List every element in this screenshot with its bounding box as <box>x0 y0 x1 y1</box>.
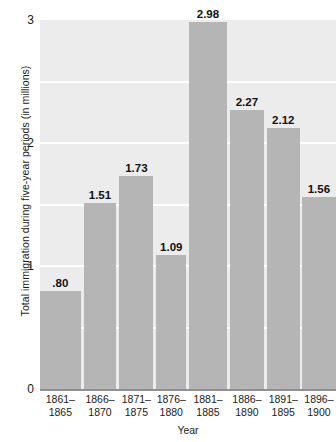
x-axis-tick-labels: 1861–18651866–18701871–18751876–18801881… <box>40 393 336 423</box>
bar[interactable] <box>84 203 117 389</box>
bar[interactable] <box>156 255 186 389</box>
bar-slot: 2.27 <box>230 20 264 389</box>
bar[interactable] <box>119 176 153 389</box>
bar-slot: 2.98 <box>189 20 227 389</box>
x-axis-title: Year <box>40 424 336 436</box>
bar-slot: 2.12 <box>267 20 300 389</box>
bar-value-label: 1.73 <box>119 162 153 174</box>
bar-value-label: 2.27 <box>230 96 264 108</box>
bar-value-label: 1.56 <box>302 183 336 195</box>
bar-series: .801.511.731.092.982.272.121.56 <box>40 20 336 389</box>
bar-slot: 1.09 <box>156 20 186 389</box>
x-tick-label-line: 1896– <box>296 393 336 406</box>
bar-slot: 1.73 <box>119 20 153 389</box>
bar-value-label: 1.51 <box>84 189 117 201</box>
bar[interactable] <box>189 22 227 389</box>
bar-slot: .80 <box>40 20 81 389</box>
x-tick-label-line: 1900 <box>296 406 336 419</box>
bar-slot: 1.56 <box>302 20 336 389</box>
bar-slot: 1.51 <box>84 20 117 389</box>
bar[interactable] <box>267 128 300 389</box>
y-tick-label: 1 <box>27 260 34 272</box>
bar[interactable] <box>302 197 336 389</box>
bar-value-label: 2.98 <box>189 8 227 20</box>
bar-value-label: 2.12 <box>267 114 300 126</box>
bar-value-label: 1.09 <box>156 241 186 253</box>
bar[interactable] <box>40 291 81 389</box>
y-tick-label: 2 <box>27 137 34 149</box>
plot-area: .801.511.731.092.982.272.121.56 <box>40 20 336 389</box>
bar[interactable] <box>230 110 264 389</box>
immigration-bar-chart: Total immigration during five-year perio… <box>0 0 336 442</box>
bar-value-label: .80 <box>40 277 81 289</box>
y-tick-label: 3 <box>27 14 34 26</box>
x-tick-label: 1896–1900 <box>296 393 336 418</box>
x-axis-line <box>40 389 336 391</box>
y-axis-tick-labels: 0123 <box>0 0 40 442</box>
y-tick-label: 0 <box>27 383 34 395</box>
